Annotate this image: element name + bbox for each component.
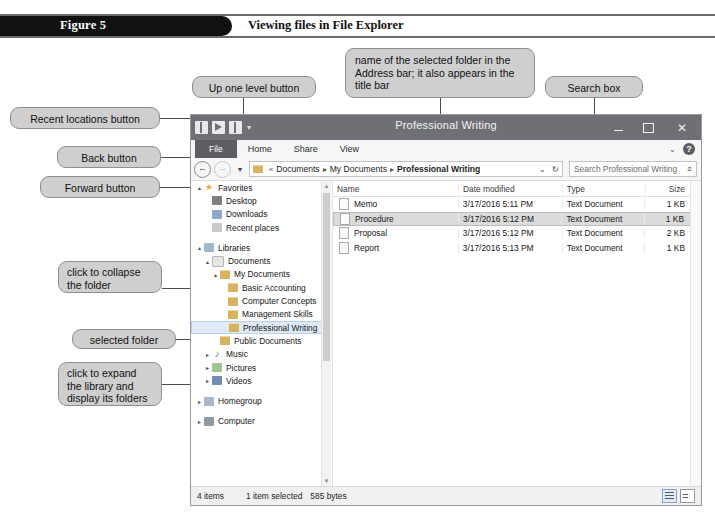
nav-item-professional-writing[interactable]: Professional Writing: [191, 321, 331, 334]
help-icon[interactable]: ?: [683, 143, 695, 155]
cell-size: 1 KB: [644, 199, 691, 209]
breadcrumb-my-documents[interactable]: My Documents: [330, 164, 387, 174]
nav-item-label: Management Skills: [242, 309, 313, 319]
down-icon: [212, 210, 222, 219]
address-overflow-icon[interactable]: «: [269, 165, 273, 174]
nav-spacer: [191, 387, 331, 394]
desktop-icon: [212, 196, 222, 205]
tab-home[interactable]: Home: [237, 140, 283, 158]
scroll-down-icon[interactable]: ▼: [323, 477, 330, 486]
nav-item-label: Pictures: [226, 363, 256, 373]
chevron-down-icon[interactable]: ⌄: [669, 145, 676, 154]
nav-item-basic-accounting[interactable]: Basic Accounting: [191, 281, 331, 294]
recent-icon: [212, 223, 222, 232]
twisty-collapse-icon[interactable]: ▴: [195, 244, 204, 251]
nav-item-documents[interactable]: ▴Documents: [191, 254, 331, 267]
view-buttons: [662, 489, 695, 503]
twisty-collapse-icon[interactable]: ▴: [203, 258, 212, 265]
close-button[interactable]: ✕: [663, 115, 701, 140]
nav-item-homegroup[interactable]: ▸Homegroup: [191, 394, 331, 407]
breadcrumb-separator-icon[interactable]: ▸: [323, 165, 327, 174]
file-name-label: Procedure: [355, 214, 394, 224]
nav-item-favorites[interactable]: ▴★Favorites: [191, 181, 331, 194]
address-bar[interactable]: « Documents ▸ My Documents ▸ Professiona…: [249, 161, 563, 177]
nav-item-my-documents[interactable]: ▴My Documents: [191, 268, 331, 281]
forward-button[interactable]: →: [214, 161, 231, 178]
nav-item-computer[interactable]: ▸Computer: [191, 415, 331, 428]
nav-item-public-documents[interactable]: Public Documents: [191, 334, 331, 347]
twisty-expand-icon[interactable]: ▸: [195, 398, 204, 405]
nav-item-desktop[interactable]: Desktop: [191, 194, 331, 207]
nav-spacer: [191, 408, 331, 415]
nav-item-computer-concepts[interactable]: Computer Concepts: [191, 294, 331, 307]
column-header-size[interactable]: Size: [645, 184, 692, 194]
cell-size: 1 KB: [644, 214, 690, 224]
comp-icon: [204, 417, 214, 426]
column-header-name[interactable]: Name: [333, 184, 458, 194]
nav-item-pictures[interactable]: ▸Pictures: [191, 361, 331, 374]
minimize-button[interactable]: [603, 115, 633, 140]
callout-back-button: Back button: [57, 146, 161, 168]
table-row[interactable]: Procedure3/17/2016 5:12 PMText Document1…: [333, 212, 691, 227]
doc-icon: [212, 256, 224, 267]
column-header-date-modified[interactable]: Date modified: [458, 184, 562, 194]
table-row[interactable]: Proposal3/17/2016 5:12 PMText Document2 …: [333, 226, 691, 241]
nav-item-management-skills[interactable]: Management Skills: [191, 308, 331, 321]
table-row[interactable]: Report3/17/2016 5:13 PMText Document1 KB: [333, 241, 691, 256]
nav-item-label: Music: [226, 349, 248, 359]
nav-item-label: Downloads: [226, 209, 267, 219]
details-view-icon[interactable]: [662, 489, 677, 503]
file-list-scrollbar[interactable]: [690, 181, 701, 487]
nav-item-libraries[interactable]: ▴Libraries: [191, 241, 331, 254]
breadcrumb-documents[interactable]: Documents: [276, 164, 319, 174]
column-header-type[interactable]: Type: [562, 184, 645, 194]
navigation-pane: ▴★FavoritesDesktopDownloadsRecent places…: [191, 181, 331, 487]
address-bar-row: ← → ▾ ↑ « Documents ▸ My Documents ▸ Pro…: [191, 158, 701, 180]
twisty-expand-icon[interactable]: ▸: [195, 418, 204, 425]
tab-view[interactable]: View: [329, 140, 370, 158]
nav-scrollbar-thumb[interactable]: [323, 193, 330, 361]
twisty-expand-icon[interactable]: ▸: [203, 351, 212, 358]
text-document-icon: [340, 213, 350, 225]
music-icon: ♪: [212, 350, 222, 359]
nav-item-label: Public Documents: [234, 336, 302, 346]
twisty-expand-icon[interactable]: ▸: [203, 377, 212, 384]
breadcrumb-separator-icon[interactable]: ▸: [390, 165, 394, 174]
tab-share[interactable]: Share: [283, 140, 329, 158]
scroll-up-icon[interactable]: ▲: [323, 182, 330, 191]
refresh-icon[interactable]: ↻: [552, 165, 559, 174]
home-icon: [204, 397, 214, 406]
nav-item-label: Libraries: [218, 243, 250, 253]
nav-item-label: Documents: [228, 256, 270, 266]
search-box[interactable]: Search Professional Writing ⌕: [569, 161, 697, 177]
nav-item-label: Basic Accounting: [242, 283, 306, 293]
address-dropdown-icon[interactable]: ⌄: [539, 165, 546, 174]
folder-icon: [253, 165, 263, 173]
twisty-collapse-icon[interactable]: ▴: [211, 271, 220, 278]
nav-item-label: Computer Concepts: [242, 296, 316, 306]
nav-item-downloads[interactable]: Downloads: [191, 208, 331, 221]
nav-item-label: Videos: [226, 376, 251, 386]
tab-file[interactable]: File: [195, 140, 237, 158]
table-row[interactable]: Memo3/17/2016 5:11 PMText Document1 KB: [333, 197, 691, 212]
window-controls[interactable]: ✕: [603, 115, 701, 140]
nav-scrollbar[interactable]: ▲ ▼: [321, 181, 331, 487]
tiles-view-icon[interactable]: [680, 489, 695, 503]
breadcrumb-professional-writing[interactable]: Professional Writing: [397, 164, 480, 174]
back-button[interactable]: ←: [194, 161, 211, 178]
cell-type: Text Document: [562, 228, 645, 238]
maximize-button[interactable]: [633, 115, 663, 140]
twisty-expand-icon[interactable]: ▸: [203, 364, 212, 371]
twisty-collapse-icon[interactable]: ▴: [195, 184, 204, 191]
nav-item-recent-places[interactable]: Recent places: [191, 221, 331, 234]
cell-size: 1 KB: [644, 243, 691, 253]
recent-locations-button[interactable]: ▾: [234, 165, 245, 174]
nav-item-videos[interactable]: ▸Videos: [191, 374, 331, 387]
nav-item-music[interactable]: ▸♪Music: [191, 348, 331, 361]
status-item-count: 4 items: [197, 491, 224, 501]
cell-type: Text Document: [562, 199, 645, 209]
file-rows: Memo3/17/2016 5:11 PMText Document1 KBPr…: [333, 197, 691, 255]
ribbon-right-controls: ⌄ ?: [669, 143, 695, 155]
figure-number: Figure 5: [60, 18, 210, 35]
search-input[interactable]: Search Professional Writing: [574, 164, 677, 174]
